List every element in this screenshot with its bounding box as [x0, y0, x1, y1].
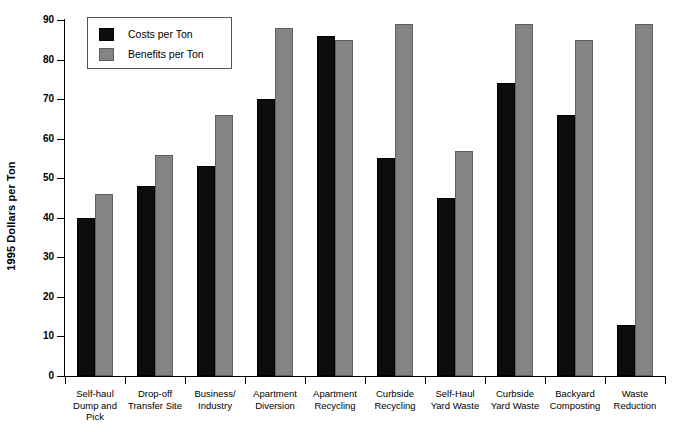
- bar-costs: [377, 158, 395, 376]
- bar-costs: [557, 115, 575, 376]
- bar-benefits: [575, 40, 593, 376]
- y-axis-tick: [57, 257, 64, 258]
- bar-costs: [497, 83, 515, 376]
- bar-benefits: [275, 28, 293, 376]
- legend-label-benefits: Benefits per Ton: [128, 48, 204, 60]
- x-axis-tick: [425, 377, 426, 384]
- bar-benefits: [395, 24, 413, 376]
- bar-costs: [257, 99, 275, 376]
- x-axis-tick: [665, 377, 666, 384]
- bar-costs: [317, 36, 335, 376]
- x-axis-tick: [545, 377, 546, 384]
- x-axis-tick: [125, 377, 126, 384]
- y-axis-tick: [57, 60, 64, 61]
- bar-benefits: [215, 115, 233, 376]
- bar-costs: [197, 166, 215, 376]
- y-axis-tick-label: 0: [14, 371, 54, 381]
- x-axis-tick: [305, 377, 306, 384]
- y-axis-tick: [57, 178, 64, 179]
- x-axis-tick: [365, 377, 366, 384]
- y-axis-tick-label: 10: [14, 331, 54, 341]
- y-axis-tick: [57, 376, 64, 377]
- legend-label-costs: Costs per Ton: [128, 28, 193, 40]
- bar-benefits: [155, 155, 173, 377]
- y-axis-tick-label: 40: [14, 213, 54, 223]
- y-axis-tick: [57, 20, 64, 21]
- y-axis-tick-label: 30: [14, 252, 54, 262]
- legend-swatch-costs-icon: [99, 28, 114, 41]
- bar-benefits: [455, 151, 473, 376]
- y-axis-tick-label: 20: [14, 292, 54, 302]
- legend-item-costs: Costs per Ton: [99, 24, 231, 44]
- bar-benefits: [335, 40, 353, 376]
- bar-benefits: [635, 24, 653, 376]
- x-axis-tick: [485, 377, 486, 384]
- bar-benefits: [95, 194, 113, 376]
- bar-costs: [137, 186, 155, 376]
- x-axis-tick: [605, 377, 606, 384]
- x-axis-tick: [185, 377, 186, 384]
- y-axis-tick: [57, 336, 64, 337]
- bar-benefits: [515, 24, 533, 376]
- y-axis-tick: [57, 139, 64, 140]
- legend-item-benefits: Benefits per Ton: [99, 44, 231, 64]
- bar-costs: [437, 198, 455, 376]
- bar-chart: 1995 Dollars per Ton 9080706050403020100…: [0, 0, 678, 432]
- y-axis-tick: [57, 218, 64, 219]
- legend-swatch-benefits-icon: [99, 48, 114, 61]
- bar-costs: [77, 218, 95, 376]
- y-axis-tick: [57, 297, 64, 298]
- y-axis-tick-label: 80: [14, 55, 54, 65]
- y-axis-tick: [57, 99, 64, 100]
- x-axis-tick: [245, 377, 246, 384]
- y-axis-tick-label: 50: [14, 173, 54, 183]
- y-axis-tick-label: 70: [14, 94, 54, 104]
- chart-legend: Costs per Ton Benefits per Ton: [87, 17, 232, 69]
- y-axis-tick-label: 60: [14, 134, 54, 144]
- x-axis-category-label: WasteReduction: [599, 388, 671, 411]
- x-axis-tick: [65, 377, 66, 384]
- y-axis-tick-label: 90: [14, 15, 54, 25]
- bar-costs: [617, 325, 635, 376]
- plot-area: [65, 20, 665, 376]
